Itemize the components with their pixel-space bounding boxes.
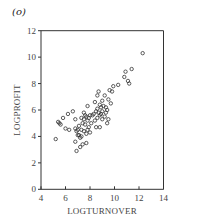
y-tick-label: 8 [32,79,37,89]
data-point [85,132,88,135]
data-point [90,122,93,125]
data-point [123,75,126,78]
y-tick-label: 12 [27,26,36,36]
data-point [88,131,91,134]
data-point [64,127,67,130]
data-point [97,90,100,93]
x-tick-label: 4 [39,193,44,203]
data-point [94,125,97,128]
y-axis-label: LOGPROFIT [12,84,22,136]
data-point [107,98,110,101]
x-tick-label: 8 [88,193,93,203]
data-point [96,94,99,97]
data-point [66,112,69,115]
data-point [86,104,89,107]
data-points [54,51,144,152]
data-point [101,118,104,121]
data-point [93,100,96,103]
data-point [61,116,64,119]
x-tick-label: 6 [63,193,68,203]
x-axis-label: LOGTURNOVER [67,206,137,216]
data-point [103,94,106,97]
data-point [105,122,108,125]
data-point [81,143,84,146]
y-tick-label: 0 [32,184,37,194]
x-tick-label: 14 [159,193,169,203]
y-tick-label: 2 [32,158,37,168]
data-point [112,85,115,88]
data-point [124,70,127,73]
y-tick-label: 4 [32,131,37,141]
data-point [54,137,57,140]
data-point [85,141,88,144]
data-point [77,124,80,127]
data-point [116,83,119,86]
data-point [67,128,70,131]
data-point [141,51,144,54]
x-tick-label: 10 [110,193,120,203]
data-point [130,67,133,70]
data-point [75,149,78,152]
data-point [71,110,74,113]
data-point [93,119,96,122]
data-point [109,102,112,105]
y-tick-label: 10 [27,52,37,62]
data-point [98,125,101,128]
data-point [74,140,77,143]
data-point [74,118,77,121]
data-point [101,99,104,102]
x-tick-label: 12 [135,193,144,203]
data-point [107,118,110,121]
scatter-chart: 468101214024681012 LOGTURNOVER LOGPROFIT [0,0,208,223]
y-tick-label: 6 [32,105,37,115]
